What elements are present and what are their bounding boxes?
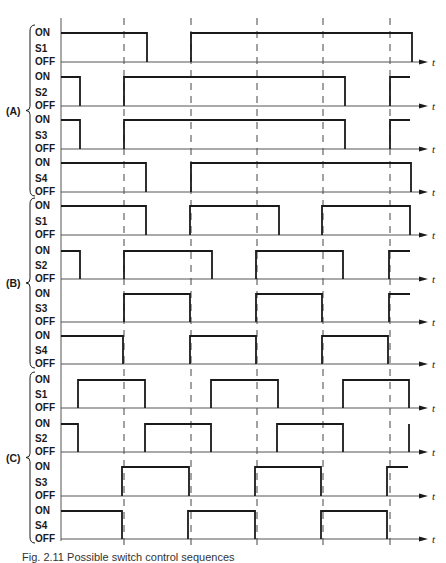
pulse [61,206,146,235]
signal-s3: ONS3OFFt [35,461,436,502]
on-label: ON [35,245,50,256]
off-label: OFF [35,402,55,413]
pulse [190,206,279,235]
time-label: t [432,143,436,155]
pulse [124,251,212,279]
off-label: OFF [35,490,55,501]
pulse [61,33,147,62]
switch-name: S4 [35,173,48,184]
pulse [321,511,387,539]
pulse [124,120,345,149]
pulse [343,380,409,408]
off-label: OFF [35,316,55,327]
on-label: ON [35,200,50,211]
switch-name: S4 [35,520,48,531]
signal-s3: ONS3OFFt [35,288,436,328]
pulse [61,120,80,149]
pulse [389,294,410,322]
arrow-right-icon [419,190,428,195]
off-label: OFF [35,56,55,67]
pulse [61,424,78,452]
switch-name: S2 [35,87,48,98]
pulse [322,336,388,364]
section-c: (C)ONS1OFFtONS2OFFtONS3OFFtONS4OFFt [6,372,436,545]
brace-icon [26,25,35,196]
on-label: ON [35,461,50,472]
pulse [78,380,145,408]
pulse [191,33,412,62]
section-a: (A)ONS1OFFtONS2OFFtONS3OFFtONS4OFFt [6,25,436,198]
switch-name: S3 [35,130,48,141]
on-label: ON [35,157,50,168]
on-label: ON [35,374,50,385]
arrow-right-icon [419,494,428,499]
brace-icon [26,372,35,543]
arrow-right-icon [419,60,428,65]
pulse [61,511,122,539]
time-label: t [432,490,436,502]
off-label: OFF [35,533,55,544]
signal-s2: ONS2OFFt [35,245,436,285]
signal-s2: ONS2OFFt [35,418,436,458]
time-label: t [432,533,436,545]
time-label: t [432,186,436,198]
pulse [122,467,189,496]
pulse [190,336,256,364]
pulse [322,206,410,235]
signal-s4: ONS4OFFt [35,505,436,545]
switch-name: S4 [35,345,48,356]
arrow-right-icon [419,277,428,282]
on-label: ON [35,505,50,516]
arrow-right-icon [419,147,428,152]
pulse [61,336,123,364]
on-label: ON [35,288,50,299]
pulse [61,77,80,106]
signal-s4: ONS4OFFt [35,157,436,198]
off-label: OFF [35,229,55,240]
time-label: t [432,273,436,285]
switch-name: S1 [35,216,48,227]
section-label: (B) [6,277,21,289]
arrow-right-icon [419,104,428,109]
arrow-right-icon [419,406,428,411]
off-label: OFF [35,100,55,111]
pulse [211,380,278,408]
waveform-sections: (A)ONS1OFFtONS2OFFtONS3OFFtONS4OFFt(B)ON… [6,25,436,545]
pulse [145,424,211,452]
on-label: ON [35,418,50,429]
pulse [61,163,146,192]
time-label: t [432,56,436,68]
off-label: OFF [35,143,55,154]
signal-s3: ONS3OFFt [35,114,436,155]
brace-icon [26,198,35,368]
section-label: (A) [6,105,21,117]
signal-s1: ONS1OFFt [35,200,436,241]
on-label: ON [35,114,50,125]
dashed-reference-lines [124,18,390,545]
pulse [390,120,410,149]
time-label: t [432,402,436,414]
on-label: ON [35,71,50,82]
time-label: t [432,229,436,241]
switch-name: S3 [35,303,48,314]
off-label: OFF [35,273,55,284]
pulse [124,77,345,106]
pulse [256,251,343,279]
pulse [277,424,343,452]
switch-name: S2 [35,433,48,444]
section-label: (C) [6,452,21,464]
off-label: OFF [35,186,55,197]
arrow-right-icon [419,320,428,325]
arrow-right-icon [419,450,428,455]
time-label: t [432,358,436,370]
switch-name: S1 [35,43,48,54]
pulse [61,251,80,279]
time-label: t [432,316,436,328]
switch-name: S2 [35,260,48,271]
pulse [124,294,190,322]
signal-s2: ONS2OFFt [35,71,436,112]
pulse [191,163,411,192]
signal-s1: ONS1OFFt [35,374,436,414]
time-label: t [432,100,436,112]
